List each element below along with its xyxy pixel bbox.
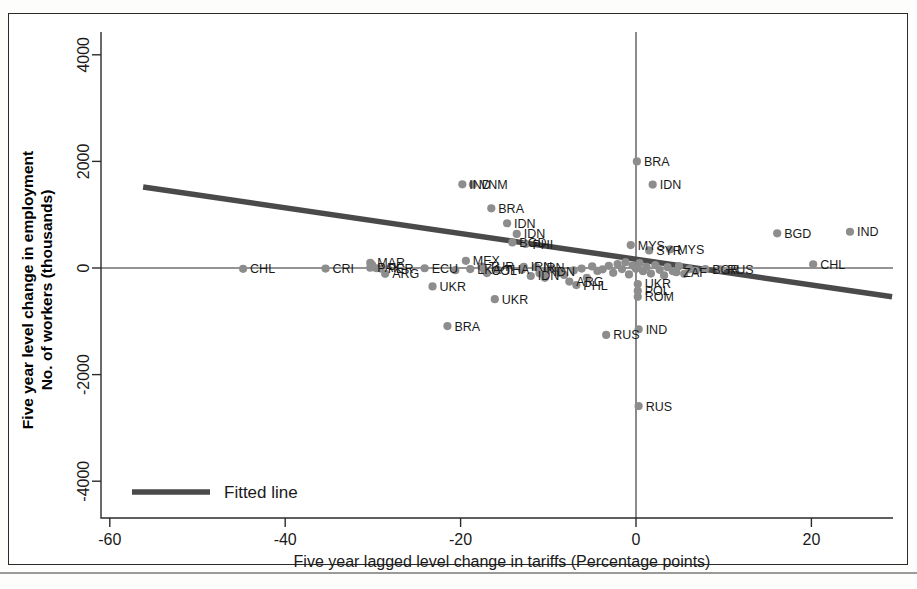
data-point-label: CHL — [820, 258, 845, 272]
data-point — [462, 257, 470, 265]
data-point — [605, 262, 613, 270]
data-point — [321, 264, 329, 272]
scatter-plot: CHLCRIMARPAKPERARGECUUKRBRAINDVNMMEXLKAT… — [0, 0, 917, 589]
data-point — [621, 258, 629, 266]
data-point — [508, 238, 516, 246]
data-point-label: ARG — [392, 267, 419, 281]
data-point-label: VNM — [480, 178, 508, 192]
data-point-label: CRI — [333, 262, 355, 276]
data-point-label: IDN — [554, 265, 576, 279]
y-tick-label: 0 — [75, 263, 92, 272]
y-tick-label: -2000 — [75, 354, 92, 395]
data-point — [578, 264, 586, 272]
data-point — [602, 331, 610, 339]
data-point-label: ZAF — [683, 266, 707, 280]
data-point — [618, 265, 626, 273]
y-tick-label: 4000 — [75, 37, 92, 73]
data-point-label: MYS — [677, 243, 704, 257]
x-axis-title: Five year lagged level change in tariffs… — [294, 553, 711, 570]
data-point — [491, 295, 499, 303]
data-point — [428, 282, 436, 290]
y-axis-title-line-1: Five year level change in employment — [19, 151, 36, 429]
data-point — [633, 157, 641, 165]
data-point-label: CHL — [250, 262, 275, 276]
data-point — [675, 262, 683, 270]
data-point — [487, 204, 495, 212]
data-point-label: THA — [504, 263, 530, 277]
data-point — [458, 180, 466, 188]
data-point — [627, 241, 635, 249]
data-point-label: RUS — [646, 400, 672, 414]
data-point — [647, 269, 655, 277]
legend-label: Fitted line — [224, 483, 298, 502]
data-point — [239, 265, 247, 273]
data-points-group — [239, 157, 854, 410]
data-point-label: RUS — [727, 263, 753, 277]
data-point-label: PHL — [583, 279, 607, 293]
data-point — [421, 264, 429, 272]
point-labels-group: CHLCRIMARPAKPERARGECUUKRBRAINDVNMMEXLKAT… — [250, 155, 878, 414]
data-point — [625, 270, 633, 278]
data-point-label: BRA — [498, 202, 524, 216]
data-point-label: ECU — [432, 262, 458, 276]
y-tick-label: -4000 — [75, 461, 92, 502]
data-point — [565, 277, 573, 285]
data-point-label: PHI — [532, 238, 553, 252]
data-point-label: IND — [857, 225, 879, 239]
data-point-label: UKR — [502, 293, 528, 307]
legend-group: Fitted line — [132, 483, 298, 502]
x-tick-label: 20 — [803, 531, 821, 548]
data-point-label: IDN — [660, 178, 682, 192]
x-tick-label: 0 — [632, 531, 641, 548]
data-point — [634, 293, 642, 301]
data-point-label: ROM — [645, 290, 674, 304]
data-point — [443, 322, 451, 330]
data-point-label: BGD — [784, 227, 811, 241]
data-point — [635, 259, 643, 267]
page-bottom-rule — [0, 572, 917, 574]
data-point — [773, 229, 781, 237]
data-point-label: BRA — [454, 320, 480, 334]
data-point — [503, 219, 511, 227]
data-point-label: IND — [646, 323, 668, 337]
data-point-label: UKR — [440, 280, 466, 294]
y-axis-title-line-2: No. of workers (thousands) — [38, 190, 55, 391]
data-point — [846, 228, 854, 236]
figure-container: CHLCRIMARPAKPERARGECUUKRBRAINDVNMMEXLKAT… — [0, 0, 917, 589]
x-tick-label: -40 — [274, 531, 297, 548]
data-point — [635, 402, 643, 410]
data-point — [649, 180, 657, 188]
x-tick-label: -60 — [98, 531, 121, 548]
x-tick-label: -20 — [449, 531, 472, 548]
y-tick-label: 2000 — [75, 144, 92, 180]
data-point — [609, 269, 617, 277]
data-point-label: BRA — [644, 155, 670, 169]
data-point — [809, 260, 817, 268]
data-point-label: RUS — [613, 328, 639, 342]
